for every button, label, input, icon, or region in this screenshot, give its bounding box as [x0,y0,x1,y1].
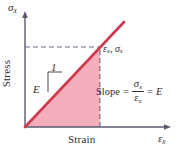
slope-equation: Slope = σx εx = E [96,79,162,105]
fraction-denominator: εx [132,91,143,104]
slope-word: Slope [96,87,120,98]
triangle-rise-label: 1 [51,62,57,73]
x-axis-symbol: εx [158,133,166,146]
y-axis-arrowhead [22,11,28,18]
modulus-symbol: E [156,87,162,98]
plot-canvas [0,0,178,153]
equals-sign-1: = [122,87,130,98]
x-axis-label: Strain [68,134,95,145]
point-coordinate-label: εx, σx [103,44,123,55]
y-axis-label: Stress [1,60,12,87]
fraction-numerator: σx [132,79,144,91]
x-axis-arrowhead [164,124,171,130]
equals-sign-2: = [146,87,154,98]
stress-strain-figure: σx Stress Strain εx εx, σx Slope = σx εx… [0,0,178,153]
triangle-run-label: E [33,84,40,95]
y-axis-symbol: σx [8,2,17,15]
stress-over-strain-fraction: σx εx [132,79,144,105]
